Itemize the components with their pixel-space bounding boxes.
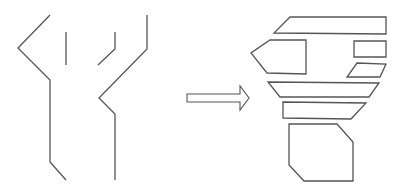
top-parallelogram xyxy=(274,17,386,34)
diagram-svg xyxy=(0,0,399,196)
small-parallelogram xyxy=(347,63,386,77)
wide-trapezoid xyxy=(268,82,379,97)
small-rectangle xyxy=(354,41,386,57)
inner-right-line xyxy=(98,32,115,65)
pentagon xyxy=(251,40,306,74)
diagram-canvas xyxy=(0,0,399,196)
lower-parallelogram xyxy=(283,102,366,119)
left-line-figure xyxy=(18,15,147,180)
bottom-hexagon xyxy=(289,124,353,181)
outer-left-line xyxy=(18,15,66,180)
right-arrow-icon xyxy=(187,86,249,110)
outer-right-line xyxy=(99,15,147,180)
arrow-shape xyxy=(187,86,249,110)
right-polygon-figure xyxy=(251,17,386,181)
